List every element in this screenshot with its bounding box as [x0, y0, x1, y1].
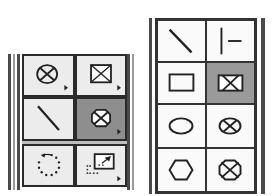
submenu-arrow-icon — [117, 129, 121, 134]
scale-tool-button[interactable] — [75, 144, 127, 187]
octagon-x-icon — [77, 99, 125, 139]
submenu-arrow-icon — [117, 85, 121, 90]
octagon-x-tool-button[interactable] — [75, 97, 127, 141]
connector-tool-button[interactable] — [206, 20, 255, 62]
hexagon-icon — [158, 149, 205, 191]
palette-divider — [22, 141, 127, 144]
diagonal-line-tool-button[interactable] — [157, 20, 206, 62]
circle-x-icon — [24, 56, 73, 95]
box-x-tool-button[interactable] — [206, 62, 255, 104]
palette-rail — [261, 18, 265, 194]
diagonal-line-icon — [158, 21, 205, 61]
circle-x-tool-button[interactable] — [206, 104, 255, 148]
left-tool-palette — [8, 54, 134, 190]
palette-rail — [132, 54, 134, 190]
box-x-icon — [207, 63, 254, 103]
hexagon-tool-button[interactable] — [157, 148, 206, 192]
octagon-x-tool-button[interactable] — [206, 148, 255, 192]
circle-x-tool-button[interactable] — [22, 54, 75, 97]
bar-dash-icon — [207, 21, 254, 61]
submenu-arrow-icon — [117, 176, 121, 181]
right-tool-palette — [149, 18, 264, 194]
submenu-arrow-icon — [64, 85, 68, 90]
rectangle-icon — [158, 63, 205, 103]
octagon-x-icon — [207, 149, 254, 191]
rotate-dotted-icon — [24, 146, 73, 185]
circle-x-icon — [207, 105, 254, 147]
palette-rail — [8, 54, 11, 190]
palette-rail — [149, 18, 152, 194]
diagonal-line-icon — [24, 99, 73, 139]
line-tool-button[interactable] — [22, 97, 75, 141]
rotate-tool-button[interactable] — [22, 144, 75, 187]
palette-rail — [127, 54, 130, 190]
palette-rail — [17, 54, 20, 190]
box-x-tool-button[interactable] — [75, 54, 127, 97]
box-x-icon — [77, 56, 125, 95]
rectangle-tool-button[interactable] — [157, 62, 206, 104]
ellipse-tool-button[interactable] — [157, 104, 206, 148]
palette-rail — [13, 54, 15, 190]
scale-box-icon — [77, 146, 125, 185]
ellipse-icon — [158, 105, 205, 147]
